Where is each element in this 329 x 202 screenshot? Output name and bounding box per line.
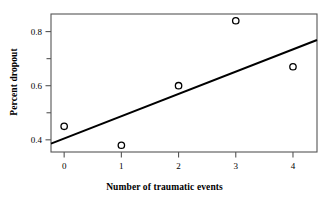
x-tick-label: 2 <box>176 161 181 171</box>
x-tick-label: 3 <box>234 161 239 171</box>
plot-frame <box>51 14 317 152</box>
y-axis-title: Percent dropout <box>9 17 19 147</box>
data-point-marker <box>61 123 67 129</box>
y-axis-ticks <box>46 32 52 140</box>
y-tick-label: 0.6 <box>31 81 43 91</box>
x-tick-label: 4 <box>291 161 296 171</box>
x-tick-label: 1 <box>119 161 124 171</box>
y-tick-label: 0.8 <box>31 27 43 37</box>
data-point-marker <box>118 142 124 148</box>
x-axis-ticks <box>64 152 293 158</box>
data-point-marker <box>175 83 181 89</box>
y-axis-tick-labels: 0.40.60.8 <box>31 27 43 145</box>
x-tick-label: 0 <box>62 161 67 171</box>
x-axis-title: Number of traumatic events <box>0 182 329 192</box>
data-point-marker <box>290 64 296 70</box>
y-tick-label: 0.4 <box>31 135 43 145</box>
plot-frame-rect <box>51 14 317 152</box>
data-point-marker <box>233 18 239 24</box>
x-axis-tick-labels: 01234 <box>62 161 296 171</box>
plot-canvas: 0.40.60.8 01234 <box>0 0 329 202</box>
scatter-plot-figure: 0.40.60.8 01234 Number of traumatic even… <box>0 0 329 202</box>
